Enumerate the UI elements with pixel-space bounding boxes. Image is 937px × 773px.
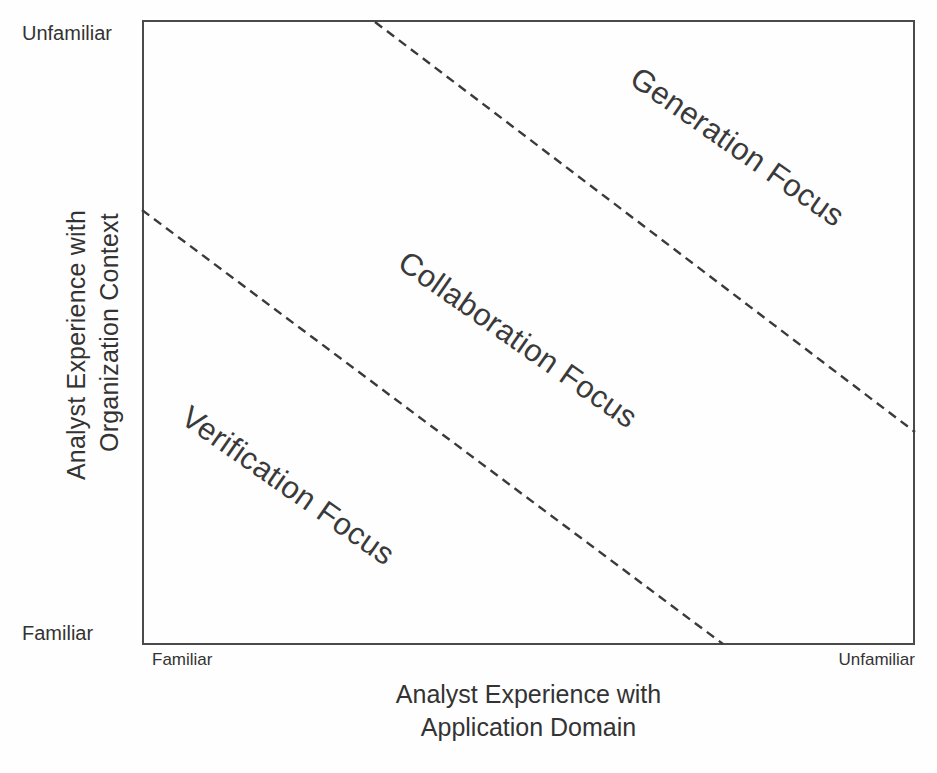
x-axis-tick-left: Familiar	[152, 650, 212, 670]
y-axis-tick-top: Unfamiliar	[22, 22, 112, 45]
x-axis-title-line-2: Application Domain	[142, 711, 915, 744]
diagram-canvas: Unfamiliar Familiar Familiar Unfamiliar …	[0, 0, 937, 773]
x-axis-tick-right: Unfamiliar	[838, 650, 915, 670]
y-axis-title-line-2: Organization Context	[95, 213, 124, 452]
x-axis-title: Analyst Experience with Application Doma…	[142, 678, 915, 744]
y-axis-tick-bottom: Familiar	[22, 622, 93, 645]
y-axis-title-line-1: Analyst Experience with	[62, 210, 91, 480]
x-axis-title-line-1: Analyst Experience with	[142, 678, 915, 711]
